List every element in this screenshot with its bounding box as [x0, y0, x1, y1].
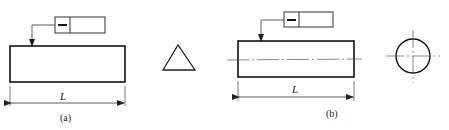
- tolerance-frame-b: [284, 12, 333, 27]
- caption-a: (a): [60, 112, 71, 124]
- circle-view: [386, 30, 440, 83]
- dimension-label-b: L: [291, 83, 298, 95]
- subfigure-b: L (b): [227, 12, 362, 120]
- tolerance-frame-a: [55, 17, 105, 33]
- leader-line-b: [261, 20, 284, 41]
- drawing-canvas: L (a) L (b): [0, 0, 449, 130]
- triangle-view: [163, 45, 195, 70]
- caption-b: (b): [326, 108, 338, 120]
- subfigure-a: L (a): [10, 17, 125, 124]
- dimension-label-a: L: [59, 90, 66, 102]
- part-rectangle-a: [10, 46, 125, 82]
- leader-line-a: [32, 25, 55, 46]
- centerline-b: [227, 59, 362, 60]
